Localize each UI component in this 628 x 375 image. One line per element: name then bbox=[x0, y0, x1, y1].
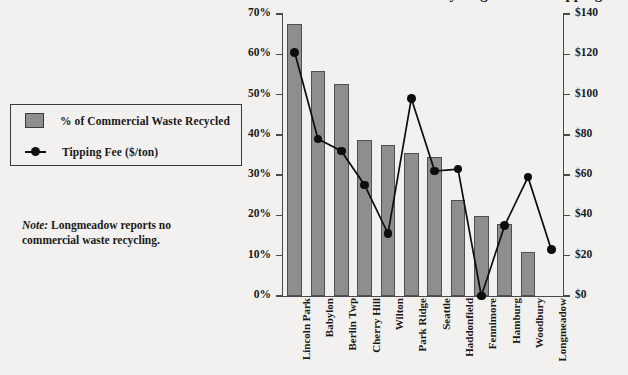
line-marker-hamburg bbox=[500, 221, 509, 230]
line-marker-longmeadow bbox=[547, 245, 556, 254]
y-axis-right-tick-label: $100 bbox=[575, 87, 628, 99]
y-axis-left-tick-label: 0% bbox=[211, 288, 271, 300]
x-axis-label-wilton: Wilton bbox=[393, 298, 405, 330]
y-axis-left-tick bbox=[276, 94, 283, 95]
x-axis-label-hamburg: Hamburg bbox=[510, 298, 522, 344]
chart-title-clipped: Commercial Waste Recycling Rates vs. Tip… bbox=[300, 0, 628, 4]
y-axis-right-tick-label: $20 bbox=[575, 248, 628, 260]
line-marker-wilton bbox=[384, 229, 393, 238]
y-axis-left-tick bbox=[276, 54, 283, 55]
tipping-fee-line bbox=[283, 14, 563, 296]
y-axis-right-tick bbox=[563, 215, 570, 216]
y-axis-right-tick-label: $120 bbox=[575, 46, 628, 58]
y-axis-right-tick bbox=[563, 134, 570, 135]
x-axis-label-fennimore: Fennimore bbox=[486, 298, 498, 349]
y-axis-right-tick bbox=[563, 54, 570, 55]
line-marker-park-ridge bbox=[407, 94, 416, 103]
gray-square-swatch-icon bbox=[25, 113, 44, 128]
line-marker-swatch-icon bbox=[25, 144, 46, 159]
y-axis-left-tick-label: 50% bbox=[211, 87, 271, 99]
x-axis-category-labels: Lincoln ParkBabylonBerlin TwpCherry Hill… bbox=[283, 298, 563, 375]
x-axis-label-longmeadow: Longmeadow bbox=[556, 298, 568, 362]
y-axis-right-tick bbox=[563, 295, 570, 296]
x-axis-label-seattle: Seattle bbox=[440, 298, 452, 330]
line-marker-lincoln-park bbox=[290, 48, 299, 57]
y-axis-left-tick bbox=[276, 174, 283, 175]
legend-label-recycled: % of Commercial Waste Recycled bbox=[60, 115, 230, 127]
y-axis-left-tick bbox=[276, 295, 283, 296]
y-axis-right-tick-label: $140 bbox=[575, 6, 628, 18]
y-axis-right-tick bbox=[563, 13, 570, 14]
y-axis-right-tick bbox=[563, 255, 570, 256]
y-axis-left-tick bbox=[276, 134, 283, 135]
chart-title-text: Commercial Waste Recycling Rates vs. Tip… bbox=[300, 0, 628, 3]
y-axis-right-tick bbox=[563, 174, 570, 175]
chart-page: Commercial Waste Recycling Rates vs. Tip… bbox=[0, 0, 628, 375]
x-axis-label-babylon: Babylon bbox=[323, 298, 335, 337]
x-axis-label-park-ridge: Park Ridge bbox=[416, 298, 428, 351]
y-axis-right-tick-label: $40 bbox=[575, 207, 628, 219]
x-axis-label-woodbury: Woodbury bbox=[533, 298, 545, 348]
x-axis-label-lincoln-park: Lincoln Park bbox=[300, 298, 312, 360]
x-axis-label-berlin-twp: Berlin Twp bbox=[346, 298, 358, 350]
y-axis-right-tick-label: $0 bbox=[575, 288, 628, 300]
y-axis-left-tick-label: 70% bbox=[211, 6, 271, 18]
y-axis-right-tick-label: $60 bbox=[575, 167, 628, 179]
chart-note: Note: Longmeadow reports no commercial w… bbox=[22, 218, 227, 248]
line-marker-berlin-twp bbox=[337, 147, 346, 156]
legend-label-tipping-fee: Tipping Fee ($/ton) bbox=[62, 146, 158, 158]
y-axis-left-tick bbox=[276, 255, 283, 256]
plot-area: 0%10%20%30%40%50%60%70%$0$20$40$60$80$10… bbox=[283, 14, 563, 296]
x-axis-label-haddonfield: Haddonfield bbox=[463, 298, 475, 357]
y-axis-right-tick-label: $80 bbox=[575, 127, 628, 139]
y-axis-left-tick-label: 40% bbox=[211, 127, 271, 139]
y-axis-left-tick bbox=[276, 13, 283, 14]
legend-item-tipping-fee: Tipping Fee ($/ton) bbox=[11, 136, 241, 167]
y-axis-right-tick bbox=[563, 94, 570, 95]
y-axis-left-tick-label: 60% bbox=[211, 46, 271, 58]
y-axis-left-tick bbox=[276, 215, 283, 216]
note-label: Note: bbox=[22, 219, 48, 231]
x-axis-label-cherry-hill: Cherry Hill bbox=[370, 298, 382, 353]
y-axis-left-tick-label: 10% bbox=[211, 248, 271, 260]
legend-item-recycled: % of Commercial Waste Recycled bbox=[11, 105, 241, 136]
y-axis-left-tick-label: 20% bbox=[211, 207, 271, 219]
y-axis-left-tick-label: 30% bbox=[211, 167, 271, 179]
chart-legend: % of Commercial Waste Recycled Tipping F… bbox=[10, 104, 242, 166]
y-axis-right bbox=[563, 14, 564, 296]
